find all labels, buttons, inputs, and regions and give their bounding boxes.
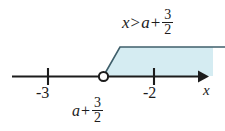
- axis-label-x: x: [203, 83, 210, 98]
- inequality-numerator: 3: [162, 8, 173, 22]
- number-line-figure: x > a + 3 2 -3 -2 x a + 3 2: [0, 0, 225, 131]
- open-circle-marker-icon: [99, 72, 108, 81]
- inequality-denominator: 2: [162, 22, 173, 37]
- inequality-operator: +: [150, 14, 162, 31]
- boundary-operator: +: [80, 103, 91, 119]
- inequality-fraction: 3 2: [162, 8, 173, 38]
- boundary-numerator: 3: [92, 96, 103, 110]
- number-line-graphic: [0, 0, 225, 131]
- boundary-denominator: 2: [92, 110, 103, 125]
- inequality-term: a: [141, 14, 150, 31]
- boundary-point-label: a + 3 2: [72, 96, 103, 126]
- inequality-relation: >: [130, 14, 142, 31]
- boundary-fraction: 3 2: [92, 96, 103, 126]
- tick-label-neg3: -3: [36, 85, 49, 101]
- tick-label-neg2: -2: [143, 85, 156, 101]
- solution-region-fill: [104, 47, 214, 76]
- inequality-label: x > a + 3 2: [122, 8, 173, 38]
- inequality-variable: x: [122, 14, 130, 31]
- boundary-term: a: [72, 103, 80, 119]
